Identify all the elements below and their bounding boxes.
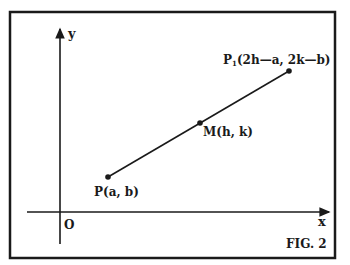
point-p1-coords: (2h—a, 2k—b) xyxy=(237,53,331,67)
x-axis-label: x xyxy=(318,214,326,229)
point-p1-label: P1(2h—a, 2k—b) xyxy=(223,53,331,68)
figure-canvas: y x O P(a, b) M(h, k) P1(2h—a, 2k—b) FIG… xyxy=(0,0,350,265)
point-p1 xyxy=(286,68,292,74)
point-p xyxy=(105,174,111,180)
point-m-label: M(h, k) xyxy=(203,125,253,139)
origin-label: O xyxy=(64,218,74,232)
point-p1-name: P xyxy=(223,53,232,67)
figure-frame xyxy=(10,12,335,258)
point-p-label: P(a, b) xyxy=(94,185,139,199)
figure-caption: FIG. 2 xyxy=(286,237,327,251)
y-axis-label: y xyxy=(67,26,76,41)
point-m xyxy=(197,120,203,126)
